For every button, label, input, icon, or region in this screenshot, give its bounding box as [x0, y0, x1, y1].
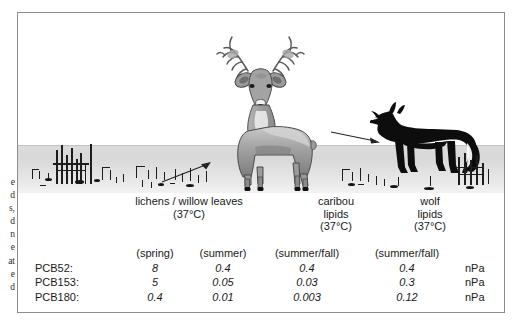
- header-spring: (spring): [121, 246, 189, 261]
- cell-spring: 8: [121, 261, 189, 276]
- cell-wolf: 0.3: [357, 275, 457, 290]
- margin-fragment: s,: [2, 202, 15, 215]
- row-label: PCB153:: [18, 275, 121, 290]
- table-row: PCB153: 5 0.05 0.03 0.3 nPa: [18, 275, 505, 290]
- table-header-row: (spring) (summer) (summer/fall) (summer/…: [18, 246, 505, 261]
- cell-summer: 0.01: [189, 290, 257, 305]
- header-wolf-season: (summer/fall): [357, 246, 457, 261]
- margin-fragment: n: [2, 228, 15, 241]
- cell-unit: nPa: [457, 261, 505, 276]
- cell-caribou: 0.003: [257, 290, 357, 305]
- cell-caribou: 0.4: [257, 261, 357, 276]
- row-label: PCB180:: [18, 290, 121, 305]
- cell-spring: 0.4: [121, 290, 189, 305]
- caption-lichens: lichens / willow leaves (37°C): [78, 195, 300, 220]
- caption-wolf-line3: (37°C): [374, 220, 486, 233]
- margin-fragment: d: [2, 215, 15, 228]
- caption-row: lichens / willow leaves (37°C) caribou l…: [18, 193, 504, 245]
- shrub-icon: [328, 143, 504, 193]
- margin-fragment: at: [2, 255, 15, 268]
- caribou-svg: [201, 27, 333, 193]
- table-row: PCB52: 8 0.4 0.4 0.4 nPa: [18, 261, 505, 276]
- deer-icon: [201, 27, 333, 193]
- cell-caribou: 0.03: [257, 275, 357, 290]
- cell-summer: 0.4: [189, 261, 257, 276]
- figure-frame: lichens / willow leaves (37°C) caribou l…: [17, 12, 505, 313]
- caption-wolf-line1: wolf: [374, 195, 486, 208]
- caption-lichens-line2: (37°C): [78, 208, 300, 221]
- caption-lichens-line1: lichens / willow leaves: [78, 195, 300, 208]
- header-blank: [18, 246, 121, 261]
- cell-summer: 0.05: [189, 275, 257, 290]
- illustration-panel: [18, 13, 504, 193]
- cell-wolf: 0.12: [357, 290, 457, 305]
- caption-wolf: wolf lipids (37°C): [374, 195, 486, 233]
- cell-wolf: 0.4: [357, 261, 457, 276]
- table-row: PCB180: 0.4 0.01 0.003 0.12 nPa: [18, 290, 505, 305]
- pcb-data-table: (spring) (summer) (summer/fall) (summer/…: [18, 246, 504, 304]
- cell-unit: nPa: [457, 275, 505, 290]
- cell-unit: nPa: [457, 290, 505, 305]
- margin-fragment: e: [2, 268, 15, 281]
- header-unit-blank: [457, 246, 505, 261]
- table: (spring) (summer) (summer/fall) (summer/…: [18, 246, 505, 304]
- margin-fragment: d: [2, 281, 15, 294]
- header-caribou-season: (summer/fall): [257, 246, 357, 261]
- row-label: PCB52:: [18, 261, 121, 276]
- margin-text-column: e d s, d n e at e d: [2, 176, 15, 294]
- cell-spring: 5: [121, 275, 189, 290]
- caption-wolf-line2: lipids: [374, 208, 486, 221]
- margin-fragment: d: [2, 189, 15, 202]
- header-summer: (summer): [189, 246, 257, 261]
- margin-fragment: e: [2, 241, 15, 254]
- margin-fragment: e: [2, 176, 15, 189]
